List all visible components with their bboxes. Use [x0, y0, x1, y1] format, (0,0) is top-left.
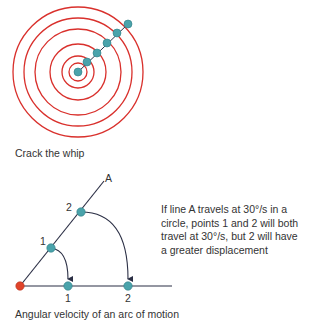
- note-line: circle, points 1 and 2 will both: [161, 217, 309, 231]
- note-line: a greater displacement: [161, 244, 309, 258]
- diagram-canvas: A 1 2 1 2: [0, 0, 310, 322]
- point-1-on-base: [64, 282, 72, 290]
- origin-dot: [16, 282, 24, 290]
- point-1-label: 1: [40, 235, 46, 247]
- whip-dot: [74, 68, 82, 76]
- arc-2-arrow: [81, 212, 128, 279]
- point-1-on-line: [47, 244, 55, 252]
- displacement-note: If line A travels at 30°/s in a circle, …: [161, 203, 309, 257]
- whip-caption: Crack the whip: [15, 147, 84, 159]
- note-line: travel at 30°/s, but 2 will have: [161, 230, 309, 244]
- note-line: If line A travels at 30°/s in a: [161, 203, 309, 217]
- whip-dot: [113, 29, 121, 37]
- point-1-base-label: 1: [65, 292, 71, 304]
- whip-dot: [83, 58, 91, 66]
- line-a: [20, 181, 104, 286]
- whip-dot: [103, 39, 111, 47]
- point-2-base-label: 2: [125, 292, 131, 304]
- line-a-label: A: [105, 172, 112, 184]
- whip-dot: [93, 49, 101, 57]
- point-2-on-line: [77, 208, 85, 216]
- whip-dot: [124, 20, 132, 28]
- point-2-on-base: [124, 282, 132, 290]
- arc-1-arrow: [51, 248, 68, 279]
- point-2-label: 2: [66, 201, 72, 213]
- arc-caption: Angular velocity of an arc of motion: [15, 308, 179, 320]
